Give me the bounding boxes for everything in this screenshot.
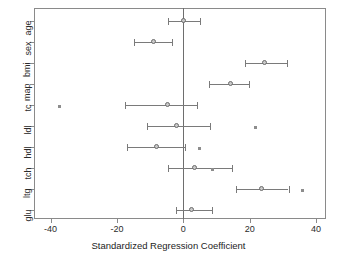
point-estimate-marker [151,39,156,44]
ci-upper-cap [200,18,201,25]
ci-upper-cap [197,102,198,109]
y-tick-label: hdl [24,146,33,158]
ci-upper-cap [210,123,211,130]
ci-lower-cap [127,144,128,151]
ci-upper-cap [232,165,233,172]
x-tick-mark [117,219,118,223]
x-tick-mark [183,219,184,223]
point-estimate-marker [259,186,264,191]
plot-area [34,8,326,219]
outlier-point-tc [58,105,61,108]
confidence-interval-bar [125,105,197,106]
x-tick-label: 20 [245,224,255,234]
point-estimate-marker [154,144,159,149]
point-estimate-marker [174,123,179,128]
point-estimate-marker [228,81,233,86]
ci-lower-cap [125,102,126,109]
ci-upper-cap [287,60,288,67]
x-tick-mark [316,219,317,223]
y-tick-label: ltg [24,188,33,198]
outlier-point-hdl [198,147,201,150]
y-tick-label: tch [24,167,33,179]
y-tick-label: bmi [24,63,33,78]
y-tick-label: age [24,21,33,36]
ci-lower-cap [209,81,210,88]
outlier-point-ldl [254,126,257,129]
y-tick-label: glu [24,209,33,221]
ci-lower-cap [134,39,135,46]
point-estimate-marker [262,60,267,65]
y-tick-label: tc [24,104,33,111]
y-tick-label: sex [24,42,33,56]
y-tick-label: map [24,84,33,102]
ci-lower-cap [168,18,169,25]
outlier-point-tch [211,168,214,171]
ci-lower-cap [245,60,246,67]
x-tick-label: 0 [181,224,186,234]
zero-reference-line [183,8,184,219]
ci-upper-cap [212,207,213,214]
ci-upper-cap [172,39,173,46]
x-tick-label: 40 [311,224,321,234]
confidence-interval-bar [168,168,232,169]
point-estimate-marker [192,165,197,170]
point-estimate-marker [189,207,194,212]
point-estimate-marker [181,18,186,23]
x-tick-label: -40 [44,224,57,234]
point-estimate-marker [165,102,170,107]
forest-plot-figure: agesexbmimaptcldlhdltchltgglu -40-200204… [0,0,337,260]
ci-lower-cap [176,207,177,214]
x-axis-title: Standardized Regression Coefficient [0,240,337,251]
ci-upper-cap [249,81,250,88]
y-tick-label: ldl [24,125,33,134]
x-tick-label: -20 [110,224,123,234]
outlier-point-ltg [301,189,304,192]
ci-lower-cap [236,186,237,193]
x-tick-mark [51,219,52,223]
ci-lower-cap [147,123,148,130]
ci-lower-cap [168,165,169,172]
x-tick-mark [250,219,251,223]
ci-upper-cap [185,144,186,151]
ci-upper-cap [289,186,290,193]
